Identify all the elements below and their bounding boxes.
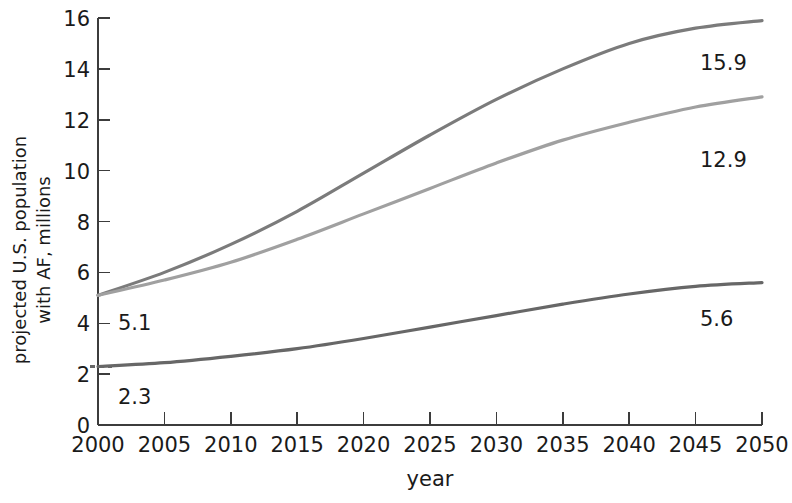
label-end-upper: 15.9 bbox=[700, 51, 747, 75]
label-end-lower: 5.6 bbox=[700, 307, 733, 331]
x-tick-label: 2025 bbox=[403, 433, 456, 457]
line-chart-svg: 16 14 12 10 8 6 4 2 0 2000 2005 bbox=[0, 0, 792, 503]
series-line-1 bbox=[98, 97, 762, 295]
x-axis-title: year bbox=[407, 467, 454, 491]
y-axis-tick-labels: 16 14 12 10 8 6 4 2 0 bbox=[63, 7, 90, 438]
x-axis-ticks bbox=[98, 412, 762, 425]
x-tick-label: 2045 bbox=[669, 433, 722, 457]
y-tick-label: 16 bbox=[63, 7, 90, 31]
chart-container: 16 14 12 10 8 6 4 2 0 2000 2005 bbox=[0, 0, 792, 503]
x-tick-label: 2015 bbox=[270, 433, 323, 457]
y-tick-label: 14 bbox=[63, 58, 90, 82]
y-tick-label: 6 bbox=[77, 261, 90, 285]
y-tick-label: 2 bbox=[77, 363, 90, 387]
x-tick-label: 2050 bbox=[735, 433, 788, 457]
y-axis-title-line2: with AF, millions bbox=[33, 176, 54, 323]
series-line-0 bbox=[98, 21, 762, 296]
label-start-upper: 5.1 bbox=[118, 311, 151, 335]
x-tick-label: 2000 bbox=[71, 433, 124, 457]
x-tick-label: 2035 bbox=[536, 433, 589, 457]
x-tick-label: 2005 bbox=[138, 433, 191, 457]
label-end-middle: 12.9 bbox=[700, 148, 747, 172]
data-series-layer bbox=[90, 21, 762, 367]
series-line-2 bbox=[98, 283, 762, 367]
y-tick-label: 8 bbox=[77, 211, 90, 235]
y-tick-label: 4 bbox=[77, 312, 90, 336]
x-tick-label: 2020 bbox=[337, 433, 390, 457]
label-start-lower: 2.3 bbox=[118, 385, 151, 409]
y-axis-title-line1: projected U.S. population bbox=[9, 136, 30, 364]
y-axis-ticks bbox=[98, 18, 110, 425]
x-tick-label: 2040 bbox=[602, 433, 655, 457]
data-point-labels: 5.1 2.3 15.9 12.9 5.6 bbox=[118, 51, 747, 409]
x-tick-label: 2030 bbox=[470, 433, 523, 457]
x-axis-tick-labels: 2000 2005 2010 2015 2020 2025 2030 2035 … bbox=[71, 433, 788, 457]
x-tick-label: 2010 bbox=[204, 433, 257, 457]
y-tick-label: 12 bbox=[63, 109, 90, 133]
y-tick-label: 10 bbox=[63, 160, 90, 184]
